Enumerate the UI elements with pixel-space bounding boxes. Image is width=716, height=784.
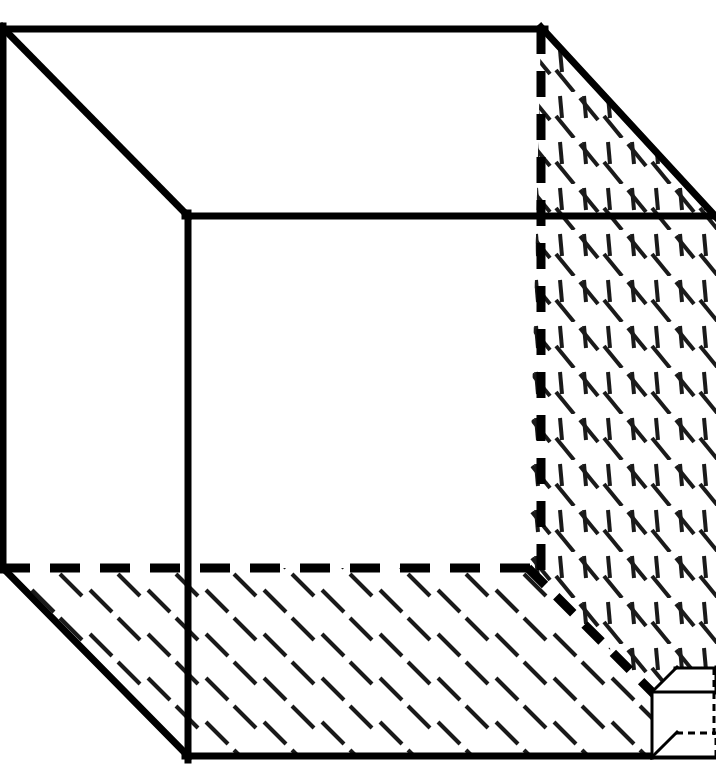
cube-drawing [0,0,716,784]
cube-diagram-root [0,0,716,784]
